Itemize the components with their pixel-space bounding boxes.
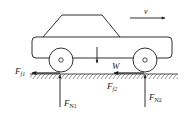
car-roof bbox=[43, 15, 120, 37]
velocity-label: v bbox=[144, 7, 148, 16]
weight-label: W bbox=[112, 61, 121, 71]
normal-n1-label: FN1 bbox=[63, 98, 77, 109]
friction-f1-label: Ff1 bbox=[14, 66, 25, 77]
right-wheel bbox=[133, 48, 157, 72]
friction-f2-label: Ff2 bbox=[106, 81, 117, 92]
normal-n2-label: FN2 bbox=[148, 92, 162, 103]
ground bbox=[30, 74, 178, 79]
car-force-diagram: W v Ff1 Ff2 FN1 FN2 bbox=[0, 0, 188, 121]
left-wheel bbox=[49, 48, 73, 72]
